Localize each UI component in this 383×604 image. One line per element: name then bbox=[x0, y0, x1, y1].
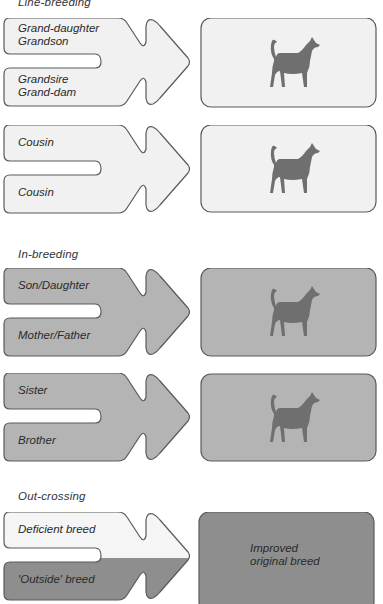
section-title-in-breeding: In-breeding bbox=[18, 248, 78, 260]
in-breeding-row-2: Sister Brother bbox=[0, 373, 383, 465]
line-breeding-row-2: Cousin Cousin bbox=[0, 125, 383, 217]
label-grand-daughter: Grand-daughter bbox=[18, 22, 99, 35]
label-deficient-breed: Deficient breed bbox=[18, 523, 95, 536]
in-breeding-row-1: Son/Daughter Mother/Father bbox=[0, 268, 383, 360]
label-son-daughter: Son/Daughter bbox=[18, 279, 89, 292]
line-breeding-row-1: Grand-daughter Grandson Grandsire Grand-… bbox=[0, 18, 383, 110]
section-title-line-breeding: Line-breeding bbox=[18, 0, 91, 8]
label-sister: Sister bbox=[18, 384, 47, 397]
result-text-line1: Improved bbox=[250, 542, 298, 555]
label-outside-breed: 'Outside' breed bbox=[18, 573, 95, 586]
out-crossing-row: Deficient breed 'Outside' breed Improved… bbox=[0, 512, 383, 604]
label-brother: Brother bbox=[18, 434, 56, 447]
forked-arrow bbox=[0, 125, 383, 217]
label-grand-dam: Grand-dam bbox=[18, 86, 76, 99]
section-title-out-crossing: Out-crossing bbox=[18, 490, 86, 502]
label-grandsire: Grandsire bbox=[18, 73, 69, 86]
forked-arrow bbox=[0, 373, 383, 465]
label-mother-father: Mother/Father bbox=[18, 329, 90, 342]
result-text-line2: original breed bbox=[250, 555, 320, 568]
label-cousin-bottom: Cousin bbox=[18, 186, 54, 199]
label-cousin-top: Cousin bbox=[18, 136, 54, 149]
label-grandson: Grandson bbox=[18, 35, 69, 48]
